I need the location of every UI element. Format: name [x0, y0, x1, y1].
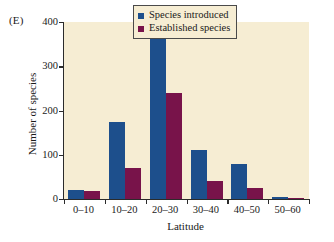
- x-tick-mark: [187, 199, 188, 204]
- legend-item: Species introduced: [138, 9, 230, 22]
- x-tick-label: 30–40: [193, 204, 219, 215]
- bar-species-introduced: [231, 164, 247, 199]
- x-tick-mark: [146, 199, 147, 204]
- panel-label: (E): [9, 14, 24, 26]
- x-tick-mark: [64, 199, 65, 204]
- y-tick-label: 300: [32, 61, 58, 72]
- y-tick-label: 400: [32, 17, 58, 28]
- bar-established-species: [247, 188, 263, 200]
- bar-species-introduced: [109, 122, 125, 199]
- bar-species-introduced: [272, 197, 288, 199]
- x-tick-label: 20–30: [152, 204, 178, 215]
- bar-established-species: [207, 181, 223, 199]
- bar-established-species: [84, 191, 100, 199]
- x-tick-mark: [309, 199, 310, 204]
- legend-label: Species introduced: [149, 10, 229, 21]
- bar-group: [268, 22, 309, 199]
- x-tick-mark: [227, 199, 228, 204]
- bar-group: [64, 22, 105, 199]
- x-tick-mark: [268, 199, 269, 204]
- y-axis-tick-labels: 0100200300400: [28, 0, 58, 242]
- legend-item: Established species: [138, 22, 230, 35]
- bar-group: [146, 22, 187, 199]
- bar-species-introduced: [68, 190, 84, 199]
- legend: Species introducedEstablished species: [133, 5, 237, 39]
- bar-species-introduced: [191, 150, 207, 199]
- bar-established-species: [166, 93, 182, 199]
- bar-established-species: [125, 168, 141, 199]
- plot-area: [63, 22, 309, 200]
- y-tick-label: 200: [32, 105, 58, 116]
- y-tick-label: 100: [32, 150, 58, 161]
- legend-swatch-icon: [138, 26, 144, 32]
- x-tick-label: 40–50: [234, 204, 260, 215]
- x-tick-mark: [105, 199, 106, 204]
- bar-group: [227, 22, 268, 199]
- bar-established-species: [288, 198, 304, 199]
- x-axis-title: Latitude: [63, 220, 308, 232]
- bar-group: [187, 22, 228, 199]
- y-tick-label: 0: [32, 194, 58, 205]
- bar-species-introduced: [150, 31, 166, 199]
- legend-label: Established species: [149, 23, 230, 34]
- x-tick-label: 10–20: [111, 204, 137, 215]
- legend-swatch-icon: [138, 13, 144, 19]
- x-tick-label: 50–60: [274, 204, 300, 215]
- figure-panel-e: (E) Number of species 0100200300400 0–10…: [0, 0, 334, 242]
- x-tick-label: 0–10: [73, 204, 94, 215]
- bar-group: [105, 22, 146, 199]
